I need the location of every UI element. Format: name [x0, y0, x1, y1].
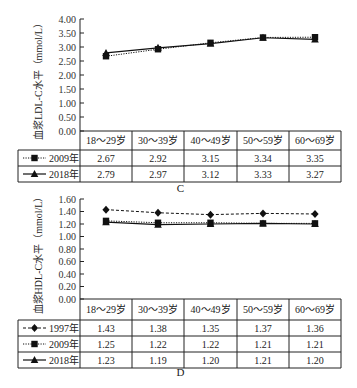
x-category-label: 50～59岁	[243, 303, 283, 315]
chart-panel-D: 0.000.200.400.600.801.001.201.401.60血浆HD…	[18, 192, 341, 378]
x-category-label: 40～49岁	[191, 134, 231, 146]
table-value: 1.20	[306, 355, 324, 366]
y-tick-label: 1.40	[59, 206, 77, 217]
table-value: 3.33	[254, 169, 272, 180]
y-tick-label: 0.20	[59, 281, 77, 292]
legend-label: 1997年	[49, 322, 79, 334]
x-category-label: 18～29岁	[86, 303, 126, 315]
y-axis-label: 血浆HDL-C水平（mmol/L）	[32, 192, 44, 315]
legend-square-icon	[31, 155, 37, 161]
legend-label: 2009年	[49, 152, 79, 164]
legend-square-icon	[31, 341, 37, 347]
y-tick-label: 1.00	[59, 231, 77, 242]
chart-panel-C: 0.000.501.001.502.002.503.003.504.00血浆LD…	[18, 14, 341, 195]
y-tick-label: 2.50	[59, 56, 77, 67]
x-category-label: 40～49岁	[191, 303, 231, 315]
table-value: 2.92	[149, 153, 167, 164]
y-tick-label: 0.50	[59, 112, 77, 123]
table-value: 1.25	[97, 339, 115, 350]
y-tick-label: 0.60	[59, 256, 77, 267]
table-value: 1.36	[306, 323, 324, 334]
table-value: 3.34	[254, 153, 272, 164]
y-tick-label: 3.50	[59, 28, 77, 39]
figure-canvas: 0.000.501.001.502.002.503.003.504.00血浆LD…	[0, 0, 357, 388]
x-category-label: 18～29岁	[86, 134, 126, 146]
table-value: 1.35	[202, 323, 220, 334]
table-value: 3.35	[306, 153, 324, 164]
legend-diamond-icon	[31, 324, 38, 332]
x-category-label: 60～69岁	[295, 303, 335, 315]
data-point-diamond	[102, 206, 109, 214]
table-value: 1.20	[202, 355, 220, 366]
y-tick-label: 3.00	[59, 42, 77, 53]
y-tick-label: 0.00	[59, 294, 77, 305]
table-value: 1.21	[306, 339, 324, 350]
table-value: 2.79	[97, 169, 115, 180]
table-value: 1.22	[202, 339, 220, 350]
table-value: 1.19	[149, 355, 167, 366]
x-category-label: 60～69岁	[295, 134, 335, 146]
table-value: 1.22	[149, 339, 167, 350]
y-tick-label: 1.00	[59, 98, 77, 109]
x-category-label: 50～59岁	[243, 134, 283, 146]
table-value: 1.23	[97, 355, 115, 366]
table-value: 1.21	[254, 355, 272, 366]
table-value: 1.43	[97, 323, 115, 334]
y-tick-label: 1.20	[59, 219, 77, 230]
x-category-label: 30～39岁	[138, 303, 178, 315]
panel-label: C	[177, 182, 184, 194]
data-point-diamond	[154, 209, 161, 217]
y-tick-label: 2.00	[59, 70, 77, 81]
y-tick-label: 0.00	[59, 126, 77, 137]
y-tick-label: 1.60	[59, 194, 77, 205]
data-point-diamond	[207, 211, 214, 219]
table-value: 3.12	[202, 169, 220, 180]
table-value: 3.27	[306, 169, 324, 180]
legend-label: 2018年	[49, 354, 79, 366]
legend-label: 2009年	[49, 338, 79, 350]
y-tick-label: 1.50	[59, 84, 77, 95]
data-point-diamond	[311, 210, 318, 218]
y-tick-label: 0.80	[59, 244, 77, 255]
table-value: 2.67	[97, 153, 115, 164]
panel-label: D	[177, 366, 185, 378]
y-tick-label: 4.00	[59, 14, 77, 25]
data-point-diamond	[259, 209, 266, 217]
table-value: 2.97	[149, 169, 167, 180]
y-tick-label: 0.40	[59, 269, 77, 280]
y-axis-label: 血浆LDL-C水平（mmol/L）	[32, 18, 44, 140]
x-category-label: 30～39岁	[138, 134, 178, 146]
table-value: 1.38	[149, 323, 167, 334]
legend-label: 2018年	[49, 168, 79, 180]
table-value: 1.37	[254, 323, 272, 334]
table-value: 1.21	[254, 339, 272, 350]
table-value: 3.15	[202, 153, 220, 164]
